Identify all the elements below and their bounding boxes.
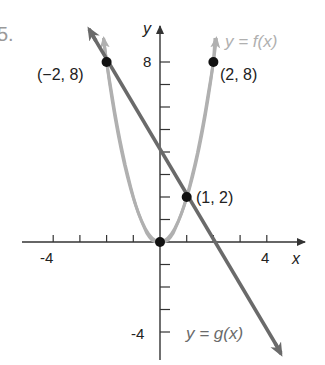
label-point-neg2-8: (−2, 8) [37, 66, 84, 83]
g-label: y = g(x) [185, 324, 243, 343]
label-point-2-8: (2, 8) [220, 66, 257, 83]
y-tick-label-neg4: -4 [131, 325, 144, 342]
coordinate-plane: 5. [0, 0, 325, 365]
x-tick-label-neg4: -4 [40, 249, 53, 266]
point-2-8 [208, 57, 218, 67]
point-neg2-8 [102, 57, 112, 67]
problem-number: 5. [0, 23, 14, 45]
y-tick-label-8: 8 [143, 53, 151, 70]
f-label: y = f(x) [224, 32, 277, 51]
y-axis-label: y [142, 20, 152, 37]
y-ticks [160, 62, 170, 332]
x-tick-label-4: 4 [261, 249, 269, 266]
parabola-left-arrow [104, 38, 105, 45]
label-point-1-2: (1, 2) [196, 189, 233, 206]
point-origin [155, 237, 165, 247]
x-axis-label: x [291, 250, 301, 267]
parabola-right-arrow [216, 38, 217, 45]
graph-figure: 5. [0, 0, 325, 365]
line-g-top-arrow [89, 29, 96, 41]
point-1-2 [182, 192, 192, 202]
